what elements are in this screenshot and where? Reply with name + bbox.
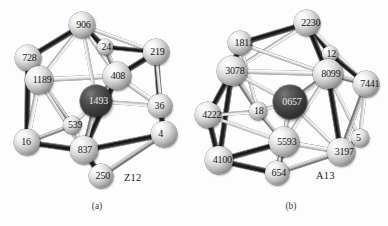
panel-b-cluster-tag: A13 [316,170,335,181]
atom-label: 3197 [335,147,354,157]
atom-label: 0657 [282,97,301,107]
atom-label: 2230 [301,18,320,28]
atom-label: 4100 [213,155,232,165]
atom [151,121,177,147]
panel-b-model: 2230181112307880997441065718422255593319… [194,0,388,196]
atom-label: 4222 [202,110,221,120]
panel-b: 2230181112307880997441065718422255593319… [194,0,388,226]
atom-label: 906 [76,20,90,30]
atom-label: 5 [356,133,361,143]
atom-label: 7441 [360,79,379,89]
cluster-structure-figure: 906242197284081189149336539416837250 Z12… [0,0,388,226]
atom-label: 1189 [33,75,52,85]
atom-label: 16 [21,137,31,147]
panel-a-model: 906242197284081189149336539416837250 [0,0,194,196]
atom-label: 408 [111,71,125,81]
atom-label: 250 [96,171,110,181]
atom-label: 3078 [225,66,244,76]
atom-label: 539 [68,120,82,130]
atom-label: 654 [272,168,286,178]
atom-label: 219 [150,47,164,57]
atom-label: 837 [78,145,92,155]
panel-a: 906242197284081189149336539416837250 Z12… [0,0,194,226]
atom-label: 1811 [235,38,254,48]
panel-a-cluster-tag: Z12 [124,172,142,183]
panel-a-caption: (a) [0,201,194,211]
atom-label: 24 [101,42,111,52]
atom-label: 5593 [277,137,296,147]
atom-label: 36 [155,101,165,111]
atom-label: 8099 [321,69,340,79]
panel-b-caption: (b) [194,201,388,211]
atom-label: 1493 [89,96,108,106]
atom-label: 4 [158,129,163,139]
atom-label: 12 [326,49,336,59]
atom-label: 728 [22,53,36,63]
atom-label: 18 [254,106,264,116]
